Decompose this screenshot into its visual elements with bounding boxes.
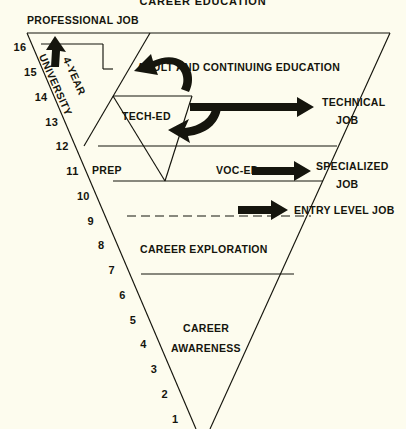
label-technical-job-line2: JOB	[336, 114, 359, 126]
label-prep: PREP	[92, 164, 122, 176]
scale-number-12: 12	[56, 140, 69, 152]
label-career-awareness-line1: CAREER	[183, 322, 229, 334]
label-tech-ed: TECH-ED	[122, 110, 171, 122]
arrow-to-specialized-job	[252, 161, 311, 181]
scale-number-7: 7	[109, 264, 115, 276]
scale-number-8: 8	[98, 239, 104, 251]
scale-number-16: 16	[14, 41, 27, 53]
scale-number-3: 3	[151, 363, 157, 375]
scale-number-11: 11	[66, 165, 78, 177]
scale-number-15: 15	[24, 66, 37, 78]
label-specialized-job-line2: JOB	[336, 178, 359, 190]
university-band-right-edge	[84, 33, 150, 146]
career-education-diagram: CAREER EDUCATION	[0, 0, 406, 429]
label-career-awareness-line2: AWARENESS	[171, 342, 241, 354]
label-voc-ed: VOC-ED	[216, 164, 259, 176]
scale-number-4: 4	[140, 338, 146, 350]
scale-number-10: 10	[77, 190, 90, 202]
label-entry-level-job: ENTRY LEVEL JOB	[294, 204, 395, 216]
label-professional-job: PROFESSIONAL JOB	[27, 14, 139, 26]
scale-number-2: 2	[161, 388, 167, 400]
arrow-to-entry-level-job	[238, 200, 288, 220]
arrow-curved-to-university	[134, 54, 192, 92]
arrow-curved-to-tech-ed	[168, 106, 221, 143]
label-technical-job-line1: TECHNICAL	[322, 96, 385, 108]
scale-number-9: 9	[87, 215, 93, 227]
label-career-exploration: CAREER EXPLORATION	[140, 243, 268, 255]
scale-number-6: 6	[119, 289, 125, 301]
triangle-right-edge	[210, 33, 390, 429]
arrow-to-technical-job	[190, 97, 314, 117]
label-adult-continuing-education: ADULT AND CONTINUING EDUCATION	[137, 61, 340, 73]
scale-number-13: 13	[45, 116, 58, 128]
label-specialized-job-line1: SPECIALIZED	[316, 160, 389, 172]
scale-number-1: 1	[172, 413, 178, 425]
scale-number-14: 14	[35, 91, 48, 103]
scale-number-5: 5	[130, 314, 136, 326]
